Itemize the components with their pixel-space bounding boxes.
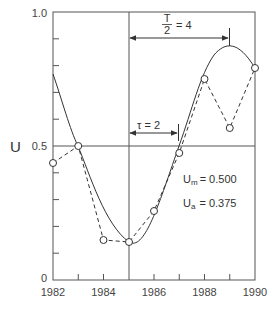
x-tick-label-1982: 1982 [41, 286, 65, 298]
tau-annotation: τ = 2 [130, 119, 179, 141]
svg-text:= 4: = 4 [176, 19, 192, 31]
x-tick-label-1984: 1984 [91, 286, 115, 298]
y-tick-label-0-5: 0.5 [32, 140, 47, 152]
svg-text:T: T [164, 12, 171, 24]
x-tick-label-1986: 1986 [142, 286, 166, 298]
svg-text:2: 2 [164, 24, 170, 36]
y-tick-label-1: 1.0 [32, 7, 47, 19]
chart: 1.0 0.5 0 U 1982 1984 1986 1988 1990 T 2… [0, 0, 274, 310]
ua-label: Ua= 0.375 [183, 197, 236, 211]
y-tick-label-0: 0 [41, 272, 47, 284]
x-ticks [78, 274, 230, 280]
svg-text:Um= 0.500: Um= 0.500 [183, 173, 237, 187]
observed-points [50, 65, 259, 246]
svg-text:Ua= 0.375: Ua= 0.375 [183, 197, 236, 211]
y-axis-label: U [10, 138, 21, 155]
x-tick-label-1990: 1990 [243, 286, 267, 298]
x-tick-label-1988: 1988 [192, 286, 216, 298]
svg-text:τ = 2: τ = 2 [137, 119, 160, 131]
half-period-annotation: T 2 = 4 [130, 12, 230, 46]
um-label: Um= 0.500 [183, 173, 237, 187]
